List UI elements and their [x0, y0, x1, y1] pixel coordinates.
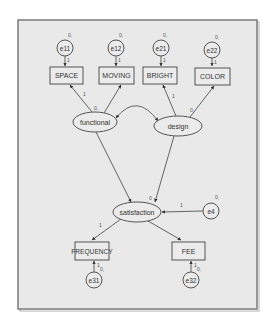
node-label: FEE — [182, 248, 196, 255]
error-label: e32 — [186, 277, 197, 284]
node-label: FREQUENCY — [71, 248, 113, 256]
param-e22-weight: 1 — [214, 59, 217, 65]
latent-node-functional: functional — [73, 112, 117, 132]
node-label: MOVING — [102, 72, 130, 79]
param-design-bright-weight: 1 — [172, 93, 175, 99]
param-e21-mean: 0, — [163, 32, 167, 38]
latent-node-satisfaction: satisfaction — [113, 202, 161, 222]
error-label: e12 — [111, 45, 122, 52]
observed-node-moving: MOVING — [99, 67, 134, 84]
diagram-frame — [18, 20, 257, 309]
observed-node-bright: BRIGHT — [143, 67, 177, 84]
observed-node-color: COLOR — [195, 68, 230, 85]
error-label: e11 — [60, 45, 71, 52]
param-e21-weight: 1 — [163, 57, 166, 63]
param-e12-mean: 0, — [119, 32, 123, 38]
param-e32-mean: 0, — [197, 266, 201, 272]
param-functional-space-weight: 1 — [83, 91, 86, 97]
node-label: design — [168, 123, 189, 131]
node-label: satisfaction — [119, 209, 154, 216]
error-node-e21: e21 — [153, 40, 169, 56]
param-e22-mean: 0, — [215, 34, 219, 40]
param-e11-weight: 1 — [67, 57, 70, 63]
error-node-e32: e32 — [183, 272, 199, 288]
param-satisfaction-intercept: 0 — [149, 195, 152, 201]
error-label: e21 — [156, 45, 167, 52]
param-e4-mean: 0, — [215, 194, 219, 200]
observed-node-fee: FEE — [172, 242, 205, 260]
error-label: e22 — [207, 47, 218, 54]
param-design-var: 0, — [190, 107, 194, 113]
sem-diagram: e11 e12 e21 e22 0, 1 0, 1 0, 1 0, 1 SPAC… — [0, 0, 275, 332]
node-label: functional — [80, 119, 110, 126]
param-e4-weight: 1 — [180, 202, 183, 208]
observed-node-frequency: FREQUENCY — [71, 242, 113, 260]
param-e11-mean: 0, — [68, 32, 72, 38]
error-label: e4 — [207, 208, 215, 215]
latent-node-design: design — [154, 116, 202, 136]
error-node-e31: e31 — [86, 272, 102, 288]
error-node-e11: e11 — [57, 40, 73, 56]
error-node-e12: e12 — [108, 40, 124, 56]
param-satisfaction-frequency-weight: 1 — [99, 222, 102, 228]
param-e31-mean: 0, — [100, 266, 104, 272]
node-label: BRIGHT — [147, 72, 174, 79]
param-functional-var: 0, — [94, 105, 98, 111]
node-label: SPACE — [55, 72, 79, 79]
error-label: e31 — [89, 277, 100, 284]
observed-node-space: SPACE — [50, 67, 83, 84]
node-label: COLOR — [200, 73, 225, 80]
param-e12-weight: 1 — [118, 57, 121, 63]
error-node-e22: e22 — [204, 42, 220, 58]
error-node-e4: e4 — [203, 203, 219, 219]
